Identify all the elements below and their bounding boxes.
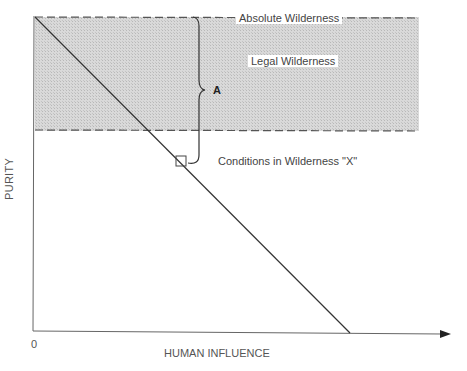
origin-label: 0 bbox=[31, 338, 37, 350]
diagram-canvas bbox=[0, 0, 467, 371]
absolute-wilderness-label: Absolute Wilderness bbox=[236, 12, 342, 24]
x-axis-arrow-icon bbox=[440, 330, 451, 338]
x-axis-label: HUMAN INFLUENCE bbox=[164, 347, 270, 359]
wilderness-x-marker bbox=[176, 156, 186, 166]
x-axis bbox=[33, 331, 442, 334]
brace-a-label: A bbox=[213, 84, 221, 96]
legal-wilderness-label: Legal Wilderness bbox=[248, 55, 338, 67]
wilderness-x-label: Conditions in Wilderness "X" bbox=[218, 155, 357, 167]
y-axis-label: PURITY bbox=[3, 158, 15, 200]
y-axis bbox=[33, 16, 34, 331]
